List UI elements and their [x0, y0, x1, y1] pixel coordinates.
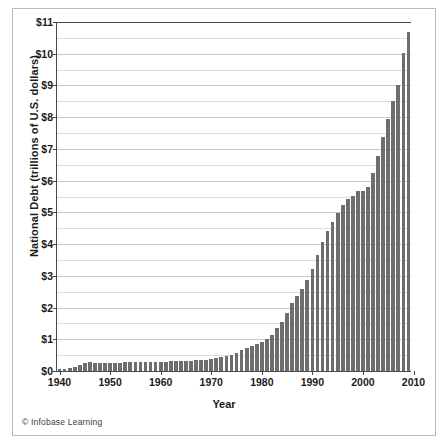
x-axis-title: Year [0, 398, 448, 410]
bar [260, 342, 264, 371]
bar [275, 328, 279, 371]
bar [336, 213, 340, 371]
bar [144, 362, 148, 371]
bar [371, 173, 375, 371]
bar [199, 360, 203, 371]
bar [376, 156, 380, 371]
bar [194, 360, 198, 371]
bar [63, 369, 67, 371]
x-tick-label: 1960 [149, 376, 172, 388]
bar [68, 368, 72, 371]
bar [386, 119, 390, 371]
bar [311, 269, 315, 371]
x-tick-label: 1980 [250, 376, 273, 388]
y-tick-label: $1 [7, 333, 53, 345]
bar [159, 362, 163, 371]
bar [219, 357, 223, 371]
bar [341, 205, 345, 371]
bar [93, 363, 97, 371]
bar [270, 335, 274, 371]
x-tick-label: 1950 [98, 376, 121, 388]
bar [300, 289, 304, 371]
bar [204, 360, 208, 371]
x-tick-mark [414, 371, 415, 375]
bar [285, 313, 289, 371]
bar [346, 199, 350, 371]
bar [326, 231, 330, 371]
bar [280, 322, 284, 371]
x-tick-mark [363, 371, 364, 375]
bar [123, 362, 127, 371]
bar [391, 101, 395, 371]
bar [134, 362, 138, 371]
bar [235, 353, 239, 371]
bar [179, 361, 183, 371]
bar [78, 365, 82, 371]
y-tick-label: $5 [7, 206, 53, 218]
bar [83, 363, 87, 371]
bar [321, 242, 325, 371]
y-tick-label: $6 [7, 175, 53, 187]
x-tick-mark [211, 371, 212, 375]
bar [169, 361, 173, 371]
bar [139, 362, 143, 371]
bar [381, 137, 385, 371]
x-tick-label: 1990 [301, 376, 324, 388]
bar [316, 255, 320, 371]
bar [250, 346, 254, 371]
bar [149, 362, 153, 371]
x-tick-label: 2010 [402, 376, 425, 388]
x-tick-mark [262, 371, 263, 375]
bar [154, 362, 158, 371]
bar [351, 196, 355, 371]
bar [214, 358, 218, 371]
y-tick-label: $4 [7, 238, 53, 250]
bar [245, 348, 249, 371]
bar [73, 367, 77, 371]
x-tick-mark [161, 371, 162, 375]
plot-area: $0$1$2$3$4$5$6$7$8$9$10$1119401950196019… [56, 22, 411, 372]
bar [225, 356, 229, 371]
bar [209, 359, 213, 371]
bar [240, 350, 244, 371]
bar [128, 362, 132, 371]
bar [88, 362, 92, 371]
bar [305, 280, 309, 371]
bar [361, 191, 365, 371]
bar [189, 361, 193, 371]
y-tick-label: $11 [7, 16, 53, 28]
bar [174, 361, 178, 371]
bar-series [57, 22, 411, 371]
y-tick-label: $8 [7, 111, 53, 123]
x-tick-label: 1970 [200, 376, 223, 388]
bar [402, 53, 406, 371]
x-tick-label: 2000 [351, 376, 374, 388]
bar [396, 85, 400, 371]
y-tick-label: $2 [7, 302, 53, 314]
bar [184, 361, 188, 371]
y-tick-label: $3 [7, 270, 53, 282]
bar [295, 296, 299, 371]
bar [255, 344, 259, 371]
x-tick-mark [110, 371, 111, 375]
bar [164, 362, 168, 371]
bar [290, 303, 294, 371]
x-tick-mark [60, 371, 61, 375]
bar [366, 187, 370, 371]
y-tick-label: $9 [7, 79, 53, 91]
bar [265, 339, 269, 371]
x-tick-mark [312, 371, 313, 375]
bar [58, 369, 62, 371]
x-tick-label: 1940 [48, 376, 71, 388]
bar [98, 363, 102, 371]
bar [118, 363, 122, 371]
bar [331, 222, 335, 371]
bar [108, 363, 112, 371]
chart-figure: National Debt (trillions of U.S. dollars… [0, 0, 448, 446]
bar [103, 363, 107, 371]
y-tick-label: $0 [7, 365, 53, 377]
y-tick-label: $7 [7, 143, 53, 155]
copyright-credit: © Infobase Learning [22, 417, 102, 427]
bar [230, 355, 234, 371]
y-tick-label: $10 [7, 48, 53, 60]
